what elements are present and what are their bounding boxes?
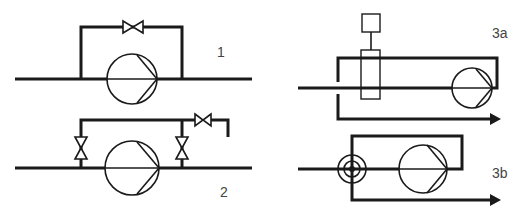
label-diagram-1: 1: [217, 44, 225, 60]
diagram-3b: [298, 136, 501, 206]
left-valve-icon: [75, 137, 87, 159]
diagram-1: [15, 21, 252, 104]
pump-icon: [107, 54, 157, 104]
arrow-right-icon: [490, 113, 501, 125]
label-diagram-2: 2: [220, 184, 228, 200]
bypass-valve-icon: [123, 21, 143, 33]
right-valve-icon: [176, 137, 188, 159]
label-diagram-3a: 3a: [492, 25, 508, 41]
pump-icon: [105, 141, 159, 195]
vent-valve-icon: [195, 114, 211, 126]
pump-icon: [452, 68, 492, 108]
actuator-icon: [362, 14, 380, 50]
pump-icon: [399, 145, 447, 193]
label-diagram-3b: 3b: [492, 165, 508, 181]
arrow-right-icon: [490, 194, 501, 206]
diagram-3a: [298, 14, 501, 125]
vent-pipe: [211, 120, 228, 137]
schematic-canvas: [0, 0, 517, 218]
diagram-2: [15, 114, 252, 195]
